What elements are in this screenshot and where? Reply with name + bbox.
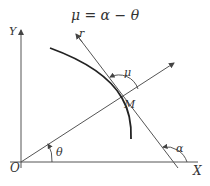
origin-label: O [10,161,20,175]
theta-label: θ [56,146,63,159]
alpha-label: α [176,142,184,155]
r-label: r [79,27,85,40]
radius-ray [21,63,174,162]
y-axis-label: Y [9,25,18,38]
theta-arc [48,144,52,162]
m-label: M [123,98,136,111]
mu-label: μ [124,66,131,79]
x-axis-label: X [192,164,202,178]
equation-title: μ = α − θ [71,7,140,23]
curve [50,48,131,139]
polar-tangent-diagram: μ = α − θ Y O X r M θ α μ [0,0,210,186]
